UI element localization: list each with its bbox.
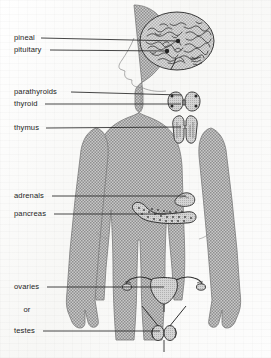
left-testis — [152, 326, 164, 341]
label-adrenals: adrenals — [14, 192, 44, 200]
right-testis — [164, 326, 176, 341]
leader-parathyroids — [71, 92, 181, 95]
label-or: or — [14, 306, 40, 314]
endocrine-system-diagram: pineal pituitary parathyroids thyroid th… — [0, 0, 271, 358]
right-ovary — [197, 284, 206, 290]
label-ovaries: ovaries — [14, 283, 39, 291]
label-pineal: pineal — [14, 34, 35, 42]
thymus-organ — [173, 116, 198, 143]
label-thyroid: thyroid — [14, 100, 38, 108]
label-parathyroids: parathyroids — [14, 88, 57, 96]
label-pituitary: pituitary — [14, 46, 42, 54]
label-testes: testes — [14, 327, 35, 335]
label-thymus: thymus — [14, 124, 39, 132]
label-pancreas: pancreas — [14, 210, 46, 218]
